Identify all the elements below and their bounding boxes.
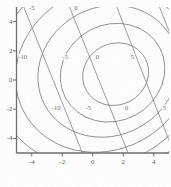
contour-line-3 — [158, 4, 171, 46]
y-axis-tick-label: 2 — [2, 47, 13, 54]
contour-level-label: -5 — [62, 53, 68, 60]
contour-level-label: 5 — [162, 104, 166, 111]
y-axis-tick-label: 4 — [2, 18, 13, 25]
contour-level-label: -10 — [51, 104, 61, 111]
x-axis-tick-label: -2 — [59, 159, 65, 166]
contour-ring--20 — [0, 0, 171, 187]
contour-level-label: 0 — [124, 104, 128, 111]
contour-line-2 — [116, 4, 171, 156]
plot-canvas — [0, 0, 171, 187]
contour-level-label: 5 — [130, 53, 134, 60]
contour-group — [0, 0, 171, 187]
contour-ring--10 — [0, 0, 171, 183]
contour-level-label: 0 — [74, 5, 78, 12]
x-axis-tick-label: 2 — [122, 159, 126, 166]
x-axis-tick-label: 0 — [91, 159, 95, 166]
contour-level-label: -5 — [85, 104, 91, 111]
contour-level-label: -10 — [18, 53, 28, 60]
contour-level-label: 0 — [95, 53, 99, 60]
contour-plot-figure: -4-2024-4-2024 -50-10-505-10-505 — [0, 0, 171, 187]
y-axis-tick-label: 0 — [2, 77, 13, 84]
x-axis-tick-label: -4 — [29, 159, 35, 166]
y-axis-tick-label: -4 — [2, 135, 13, 142]
contour-line-0 — [23, 4, 84, 156]
x-axis-tick-label: 4 — [152, 159, 156, 166]
contour-level-label: -5 — [29, 5, 35, 12]
contour-ring--15 — [0, 0, 171, 187]
y-axis-tick-label: -2 — [2, 106, 13, 113]
